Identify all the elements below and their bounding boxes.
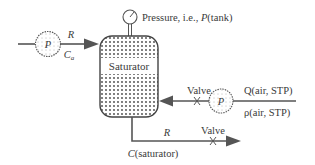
inlet-pump: P [36,32,61,57]
outlet-concentration-label: C(saturator) [128,148,179,160]
pressure-gauge-icon [123,10,137,36]
inlet-concentration-label: Ca [64,49,75,62]
air-pump-label: P [217,96,225,107]
air-pump: P [209,89,233,113]
outlet-arrow-icon [226,136,241,147]
air-arrow-icon [159,96,173,107]
pressure-label: Pressure, i.e., P(tank) [142,12,233,24]
inlet-arrow-icon [84,39,99,50]
air-density-label: ρ(air, STP) [244,107,291,119]
air-flow-label: Q(air, STP) [244,85,293,97]
air-valve-label: Valve [187,85,211,96]
inlet-pump-label: P [44,39,52,50]
outlet-valve-label: Valve [201,125,225,136]
tank-label: Saturator [109,60,150,72]
saturator-tank: Saturator [100,36,158,117]
outlet-rate-label: R [163,127,171,138]
inlet-rate-label: R [67,29,75,40]
saturator-diagram: P R Ca Pressure, i.e., P(tank) Saturator… [0,0,315,165]
